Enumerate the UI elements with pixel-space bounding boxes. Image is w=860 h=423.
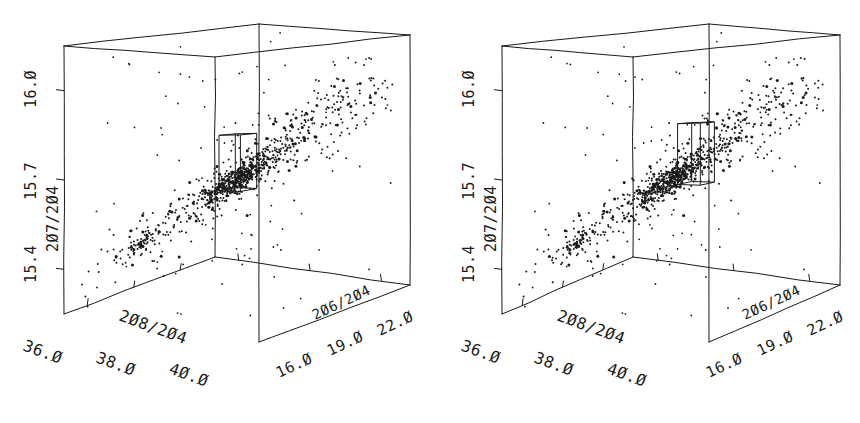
data-point (162, 234, 164, 236)
data-point (727, 307, 729, 309)
data-point (339, 90, 341, 92)
data-point (270, 41, 272, 43)
data-point (259, 177, 262, 180)
data-point (633, 180, 635, 182)
data-point (692, 194, 694, 196)
y-tick (494, 179, 502, 180)
cube-edge (259, 24, 410, 35)
data-point (226, 175, 228, 177)
data-point (211, 195, 213, 197)
data-point (680, 170, 682, 172)
data-point (267, 158, 269, 160)
data-point (662, 183, 664, 185)
data-point (325, 116, 327, 118)
data-point (632, 207, 634, 209)
data-point (258, 124, 260, 126)
data-point (271, 187, 273, 189)
data-point (659, 248, 661, 250)
data-point (592, 268, 594, 270)
data-point (173, 224, 175, 226)
data-point (337, 108, 340, 111)
data-point (643, 189, 645, 191)
data-point (169, 231, 171, 233)
data-point (765, 61, 767, 63)
data-point (672, 234, 674, 236)
scatter-panel-right[interactable]: 2Ø7/2Ø415.415.716.Ø2Ø8/2Ø436.Ø38.Ø4Ø.Ø2Ø… (430, 0, 860, 423)
data-point (645, 207, 647, 209)
data-point (729, 162, 731, 164)
data-point (84, 296, 86, 298)
data-point (657, 214, 659, 216)
data-point (146, 237, 149, 240)
data-point (384, 80, 386, 82)
data-point (729, 140, 731, 142)
data-point (298, 137, 300, 139)
data-point (695, 170, 697, 172)
data-point (336, 101, 338, 103)
data-point (230, 171, 232, 173)
data-point (166, 231, 168, 233)
data-point (228, 158, 230, 160)
data-point (187, 205, 189, 207)
data-point (307, 138, 309, 140)
y-tick-label-0: 15.4 (460, 245, 478, 283)
data-point (180, 221, 182, 223)
data-point (252, 124, 254, 126)
data-point (198, 220, 200, 222)
data-point (665, 183, 667, 185)
data-point (581, 248, 583, 250)
data-point (713, 65, 715, 67)
data-point (347, 128, 349, 130)
data-point (792, 93, 794, 95)
data-point (671, 192, 674, 195)
data-point (230, 192, 232, 194)
data-point (107, 250, 109, 252)
data-point (719, 134, 721, 136)
data-point (609, 212, 611, 214)
data-point (612, 256, 615, 259)
data-point (734, 132, 736, 134)
data-point (796, 121, 798, 123)
data-point (160, 127, 162, 129)
data-point (285, 145, 287, 147)
data-point (650, 198, 652, 200)
data-point (308, 126, 310, 128)
data-point (633, 220, 635, 222)
scatter-panel-left[interactable]: 2Ø7/2Ø415.415.716.Ø2Ø8/2Ø436.Ø38.Ø4Ø.Ø2Ø… (0, 0, 430, 423)
data-point (720, 137, 722, 139)
data-point (636, 206, 638, 208)
data-point (130, 229, 133, 232)
data-point (657, 185, 659, 187)
data-point (232, 186, 234, 188)
data-point (675, 198, 677, 200)
data-point (689, 156, 691, 158)
selection-box-edge (235, 188, 256, 189)
data-point (566, 257, 568, 259)
data-point (550, 56, 552, 58)
data-point (320, 152, 322, 154)
data-point (596, 243, 598, 245)
data-point (295, 109, 297, 111)
data-point (669, 177, 671, 179)
data-point (107, 122, 109, 124)
data-point (640, 205, 642, 207)
data-point (263, 155, 265, 157)
data-point (211, 260, 213, 262)
data-point (333, 141, 335, 143)
data-point (150, 251, 152, 253)
cube-edge (502, 46, 633, 57)
data-point (267, 172, 269, 174)
data-point (564, 127, 566, 129)
data-point (648, 210, 650, 212)
data-point (267, 174, 269, 176)
data-point (268, 79, 270, 81)
data-point (770, 122, 772, 124)
data-point (660, 170, 662, 172)
z-tick-label-2: 22.Ø (374, 307, 416, 339)
data-point (665, 190, 667, 192)
axis-labels: 2Ø7/2Ø415.415.716.Ø2Ø8/2Ø436.Ø38.Ø4Ø.Ø2Ø… (459, 70, 847, 391)
data-point (645, 197, 647, 199)
data-point (665, 150, 667, 152)
data-point (317, 92, 319, 94)
data-point (330, 85, 332, 87)
